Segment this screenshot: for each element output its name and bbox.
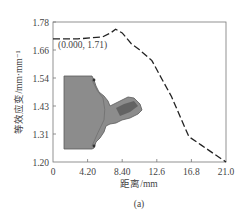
x-axis-ticks	[88, 159, 192, 162]
figure-caption: (a)	[134, 199, 145, 210]
y-tick-label: 1.78	[32, 18, 49, 28]
x-axis-tick-labels: 04.208.4012.616.821.0	[51, 167, 235, 177]
x-tick-label: 21.0	[218, 167, 235, 177]
x-tick-label: 0	[51, 167, 56, 177]
y-tick-label: 1.43	[32, 102, 49, 112]
y-tick-label: 1.54	[32, 74, 49, 84]
start-point-annotation: (0.000, 1.71)	[58, 40, 107, 51]
strain-distance-chart: 1.201.311.431.541.661.78 04.208.4012.616…	[0, 0, 246, 221]
x-tick-label: 4.20	[79, 167, 96, 177]
x-tick-label: 8.40	[114, 167, 131, 177]
y-tick-label: 1.66	[32, 46, 49, 56]
sample-inset-image	[64, 76, 142, 149]
x-axis-label: 距离/mm	[120, 178, 158, 189]
x-tick-label: 12.6	[148, 167, 165, 177]
y-tick-label: 1.20	[32, 158, 49, 168]
y-axis-tick-labels: 1.201.311.431.541.661.78	[32, 18, 49, 168]
y-tick-label: 1.31	[32, 130, 49, 140]
y-axis-label: 等效应变/mm·mm⁻¹	[13, 50, 24, 133]
x-tick-label: 16.8	[183, 167, 200, 177]
